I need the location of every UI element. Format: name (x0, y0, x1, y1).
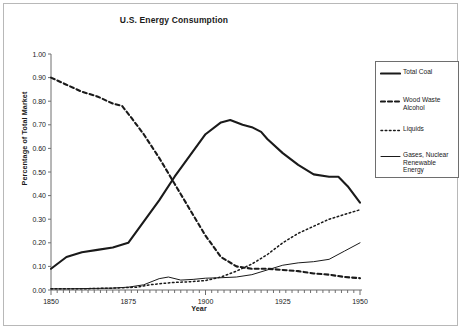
legend-item[interactable]: Liquids (380, 125, 458, 135)
legend-label: Wood Waste Alcohol (403, 96, 458, 111)
legend-item[interactable]: Wood Waste Alcohol (380, 96, 458, 111)
legend-swatch-icon (380, 97, 401, 106)
legend-swatch-icon (380, 69, 401, 78)
series-line (51, 78, 360, 279)
legend-swatch-icon (380, 152, 401, 161)
chart-legend: Total CoalWood Waste AlcoholLiquidsGases… (375, 61, 459, 178)
series-line (51, 120, 360, 269)
legend-label: Gases, Nuclear Renewable Energy (403, 151, 458, 174)
legend-item[interactable]: Gases, Nuclear Renewable Energy (380, 151, 458, 174)
legend-swatch-icon (380, 126, 401, 135)
legend-item[interactable]: Total Coal (380, 68, 458, 78)
legend-label: Total Coal (403, 68, 432, 76)
legend-label: Liquids (403, 125, 424, 133)
chart-figure: U.S. Energy Consumption Percentage of To… (3, 3, 458, 326)
